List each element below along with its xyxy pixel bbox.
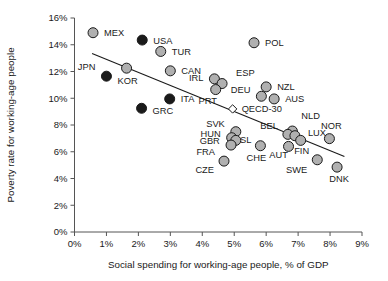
- data-point-marker: [219, 156, 229, 166]
- y-tick-label: 8%: [54, 119, 68, 130]
- x-axis-title: Social spending for working-age people, …: [108, 259, 329, 270]
- data-point-label: SWE: [286, 165, 307, 175]
- data-point-label: NLD: [301, 111, 320, 121]
- data-point-marker: [256, 91, 266, 101]
- data-point-marker: [255, 141, 265, 151]
- data-point-label: ITA: [181, 94, 196, 104]
- y-axis-title: Poverty rate for working-age people: [5, 47, 16, 203]
- x-tick-label: 8%: [323, 238, 337, 249]
- x-tick-label: 6%: [259, 238, 273, 249]
- data-point-label: AUS: [285, 94, 304, 104]
- data-point-label: IRL: [189, 73, 203, 83]
- data-point-marker: [249, 38, 259, 48]
- data-point-label: MEX: [104, 28, 124, 38]
- data-point-marker: [261, 82, 271, 92]
- data-point-label: FIN: [294, 146, 309, 156]
- data-point-label: SL: [240, 135, 251, 145]
- data-point-label: USA: [153, 36, 173, 46]
- data-point-label: KOR: [117, 76, 137, 86]
- x-tick-label: 7%: [291, 238, 305, 249]
- x-tick-label: 5%: [227, 238, 241, 249]
- data-point-marker: [122, 63, 132, 73]
- scatter-chart: 0%2%4%6%8%10%12%14%16%0%1%2%3%4%5%6%7%8%…: [0, 0, 388, 281]
- y-tick-label: 14%: [48, 39, 68, 50]
- data-point-marker: [137, 103, 147, 113]
- data-point-label: SVK: [206, 119, 225, 129]
- data-point-marker: [137, 35, 147, 45]
- data-point-marker: [269, 94, 279, 104]
- data-point-label: NZL: [277, 82, 295, 92]
- data-point-marker: [226, 140, 236, 150]
- plot-area: 0%2%4%6%8%10%12%14%16%0%1%2%3%4%5%6%7%8%…: [0, 0, 388, 281]
- data-point-marker: [312, 155, 322, 165]
- data-point-label: QECD-30: [242, 104, 282, 114]
- y-tick-label: 12%: [48, 66, 68, 77]
- data-point-label: DNK: [329, 174, 349, 184]
- y-tick-label: 2%: [54, 200, 68, 211]
- data-point-label: CHE: [247, 153, 267, 163]
- data-point-label: JPN: [78, 62, 96, 72]
- x-tick-label: 9%: [355, 238, 369, 249]
- data-point-label: FRA: [196, 147, 215, 157]
- y-tick-label: 10%: [48, 93, 68, 104]
- data-point-label: DEU: [231, 85, 251, 95]
- data-point-label: NOR: [321, 121, 342, 131]
- data-point-marker: [165, 94, 175, 104]
- data-point-label: AUT: [269, 150, 288, 160]
- data-point-label: ESP: [236, 68, 255, 78]
- data-point-marker: [211, 85, 221, 95]
- x-tick-label: 1%: [100, 238, 114, 249]
- x-tick-label: 0%: [68, 238, 82, 249]
- data-point-marker: [165, 66, 175, 76]
- y-tick-label: 4%: [54, 173, 68, 184]
- data-point-marker: [88, 28, 98, 38]
- y-tick-label: 0%: [54, 226, 68, 237]
- data-point-marker: [101, 71, 111, 81]
- data-point-label: POL: [265, 38, 284, 48]
- y-tick-label: 16%: [48, 12, 68, 23]
- data-point-label: GRC: [153, 106, 174, 116]
- data-point-marker: [156, 46, 166, 56]
- x-tick-label: 2%: [132, 238, 146, 249]
- x-tick-label: 4%: [195, 238, 209, 249]
- data-point-marker: [332, 162, 342, 172]
- x-tick-label: 3%: [163, 238, 177, 249]
- data-point-label: TUR: [172, 47, 191, 57]
- data-point-label: CZE: [195, 165, 214, 175]
- data-point-label: GBR: [200, 136, 220, 146]
- data-point-label: BEL: [260, 121, 278, 131]
- y-tick-label: 6%: [54, 146, 68, 157]
- data-point-marker: [296, 135, 306, 145]
- data-point-label: PRT: [198, 96, 217, 106]
